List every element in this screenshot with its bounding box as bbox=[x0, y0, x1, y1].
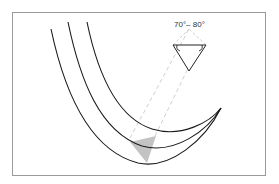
shaded-cross-section bbox=[130, 136, 156, 163]
angle-label: 70°– 80° bbox=[174, 20, 205, 29]
detail-triangle bbox=[173, 45, 206, 71]
diagram-canvas bbox=[0, 0, 279, 184]
curve-inner bbox=[87, 22, 221, 132]
projection-line-apex-right bbox=[189, 29, 206, 45]
projection-line-apex-left bbox=[173, 29, 189, 45]
